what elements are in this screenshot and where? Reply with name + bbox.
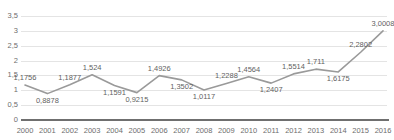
x-axis-tick-label: 2015 (352, 126, 369, 135)
clipped-title-remnant (4, 0, 204, 5)
y-axis-labels: 00,511,522,533,5 (0, 16, 18, 120)
data-point-label: 1,4926 (148, 65, 171, 73)
data-point-label: 1,0117 (193, 93, 215, 101)
y-axis-tick-label: 3,5 (1, 12, 18, 20)
x-axis-tick-label: 2012 (285, 126, 302, 135)
y-axis-tick-label: 0 (1, 116, 18, 124)
data-point-label: 1,1756 (14, 74, 37, 82)
x-axis-tick-label: 2007 (173, 126, 190, 135)
x-axis-tick-label: 2010 (240, 126, 257, 135)
data-point-label: 1,6175 (327, 75, 350, 83)
data-point-label: 1,3502 (170, 83, 193, 91)
x-axis-tick-label: 2014 (330, 126, 347, 135)
series-line (21, 16, 387, 120)
data-point-label: 1,1591 (103, 89, 126, 97)
x-axis-tick-label: 2013 (308, 126, 325, 135)
x-axis-tick-label: 2005 (129, 126, 146, 135)
data-point-label: 1,4564 (237, 66, 260, 74)
plot-area: 1,17560,88781,18771,5241,15910,92151,492… (21, 16, 387, 120)
data-point-label: 0,9215 (125, 96, 148, 104)
data-point-label: 0,8878 (36, 97, 59, 105)
x-axis-tick-label: 2004 (106, 126, 123, 135)
x-axis-tick-label: 2008 (196, 126, 213, 135)
data-point-label: 2,2802 (349, 41, 372, 49)
x-axis-tick-label: 2016 (375, 126, 392, 135)
data-point-label: 1,1877 (58, 74, 81, 82)
x-axis-tick-label: 2006 (151, 126, 168, 135)
x-axis-tick-label: 2000 (17, 126, 34, 135)
x-axis-tick-label: 2003 (84, 126, 101, 135)
y-axis-tick-label: 2,5 (1, 42, 18, 50)
data-point-label: 1,524 (83, 64, 102, 72)
data-point-label: 1,2407 (260, 86, 283, 94)
x-axis-tick-label: 2009 (218, 126, 235, 135)
y-axis-tick-label: 2 (1, 57, 18, 65)
data-point-label: 1,5514 (282, 63, 305, 71)
x-axis-labels: 2000200120022003200420052006200720082009… (21, 126, 387, 138)
x-axis-tick-label: 2002 (61, 126, 78, 135)
y-axis-tick-label: 3 (1, 27, 18, 35)
x-axis-tick-label: 2011 (263, 126, 279, 135)
y-axis-tick-label: 1 (1, 86, 18, 94)
data-point-label: 3,0008 (372, 20, 394, 28)
data-point-label: 1,711 (307, 58, 325, 66)
x-axis-tick-label: 2001 (39, 126, 56, 135)
data-point-label: 1,2288 (215, 72, 238, 80)
y-axis-tick-label: 0,5 (1, 101, 18, 109)
